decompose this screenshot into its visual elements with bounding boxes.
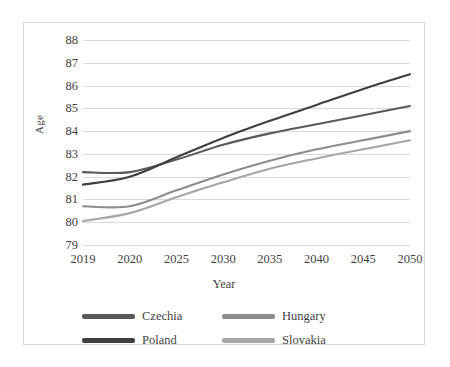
- series-line-czechia: [83, 106, 410, 173]
- plot-area-wrapper: Age 88878685848382818079: [24, 23, 424, 251]
- legend-label: Czechia: [142, 309, 182, 324]
- legend-swatch-icon: [82, 338, 135, 343]
- y-axis-tick-label: 87: [48, 57, 78, 70]
- legend-swatch-icon: [82, 314, 135, 319]
- y-axis-tick-label: 85: [48, 102, 78, 115]
- legend-swatch-icon: [222, 314, 275, 319]
- y-axis-tick-label: 81: [48, 193, 78, 206]
- y-axis-tick-label: 80: [48, 216, 78, 229]
- y-axis-tick-label: 82: [48, 170, 78, 183]
- plot-area: [83, 23, 410, 251]
- x-axis-tick-label: 2030: [211, 253, 236, 266]
- y-axis-tick-label: 86: [48, 79, 78, 92]
- y-axis-tick-labels: 88878685848382818079: [48, 23, 78, 251]
- x-axis-tick-label: 2035: [257, 253, 282, 266]
- legend-item-slovakia[interactable]: Slovakia: [222, 333, 362, 348]
- legend-label: Slovakia: [282, 333, 326, 348]
- x-axis-tick-label: 2050: [398, 253, 423, 266]
- chart-figure: Age 88878685848382818079 201920202025203…: [23, 22, 425, 345]
- x-axis-tick-label: 2020: [117, 253, 142, 266]
- series-lines: [83, 23, 410, 251]
- legend-row: CzechiaHungary: [82, 304, 382, 328]
- legend-item-hungary[interactable]: Hungary: [222, 309, 362, 324]
- y-axis-title: Age: [33, 116, 45, 134]
- legend-row: PolandSlovakia: [82, 328, 382, 352]
- series-line-slovakia: [83, 140, 410, 221]
- legend-item-poland[interactable]: Poland: [82, 333, 222, 348]
- x-axis-title: Year: [24, 277, 424, 292]
- legend-label: Hungary: [282, 309, 326, 324]
- legend-label: Poland: [142, 333, 177, 348]
- legend-item-czechia[interactable]: Czechia: [82, 309, 222, 324]
- y-axis-tick-label: 83: [48, 148, 78, 161]
- x-axis-tick-label: 2019: [71, 253, 96, 266]
- chart-legend: CzechiaHungaryPolandSlovakia: [82, 304, 382, 352]
- x-axis-tick-label: 2040: [304, 253, 329, 266]
- legend-swatch-icon: [222, 338, 275, 343]
- y-axis-tick-label: 88: [48, 34, 78, 47]
- series-line-hungary: [83, 131, 410, 207]
- y-axis-tick-label: 79: [48, 239, 78, 252]
- x-axis-tick-label: 2045: [351, 253, 376, 266]
- y-axis-tick-label: 84: [48, 125, 78, 138]
- x-axis-tick-label: 2025: [164, 253, 189, 266]
- x-axis-tick-labels: 20192020202520302035204020452050: [83, 253, 410, 273]
